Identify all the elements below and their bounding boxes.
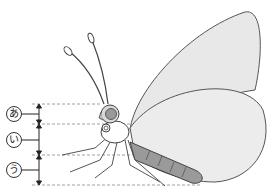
label-u: う — [6, 162, 22, 178]
measure-arrows — [22, 104, 42, 185]
antennae — [70, 40, 108, 104]
label-a: あ — [6, 106, 22, 122]
eye — [106, 109, 117, 120]
butterfly-diagram — [0, 0, 270, 191]
label-i: い — [6, 132, 22, 148]
